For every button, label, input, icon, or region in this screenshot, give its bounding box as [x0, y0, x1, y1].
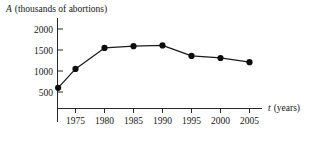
x-tick-label-1990: 1990 — [153, 116, 172, 126]
y-tick-label-1000: 1000 — [34, 67, 53, 77]
data-point-1995 — [188, 53, 194, 59]
y-axis-title-units: (thousands of abortions) — [15, 4, 107, 15]
x-tick-label-1985: 1985 — [124, 116, 143, 126]
x-tick-label-1995: 1995 — [182, 116, 201, 126]
data-point-2000 — [217, 55, 223, 61]
data-point-1972 — [55, 85, 61, 91]
data-point-1985 — [130, 43, 136, 49]
abortions-line-chart: A(thousands of abortions) 2000 1500 1000… — [0, 0, 310, 146]
y-axis-title: A(thousands of abortions) — [5, 4, 107, 15]
chart-screenshot: A(thousands of abortions) 2000 1500 1000… — [0, 0, 310, 146]
x-tick-label-2000: 2000 — [211, 116, 230, 126]
data-point-1990 — [159, 42, 165, 48]
x-tick-label-1980: 1980 — [95, 116, 114, 126]
y-tick-label-2000: 2000 — [34, 25, 53, 35]
x-axis-title-variable: t — [268, 103, 271, 113]
data-point-1975 — [72, 66, 78, 72]
x-tick-label-1975: 1975 — [66, 116, 85, 126]
data-point-2005 — [246, 59, 252, 65]
x-tick-label-2005: 2005 — [240, 116, 259, 126]
y-tick-label-500: 500 — [39, 88, 54, 98]
x-axis-title: t(years) — [268, 103, 300, 114]
x-axis-title-units: (years) — [274, 103, 300, 114]
y-tick-label-1500: 1500 — [34, 46, 53, 56]
y-axis-title-variable: A — [5, 4, 12, 14]
data-point-1980 — [101, 45, 107, 51]
data-series-line — [58, 45, 249, 87]
data-series-markers — [55, 42, 253, 91]
